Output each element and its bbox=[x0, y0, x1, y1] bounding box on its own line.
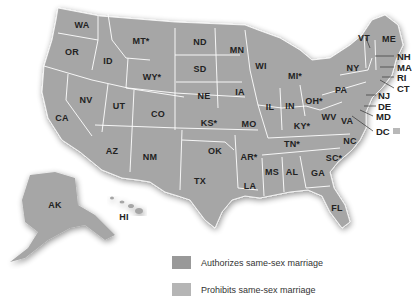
callout-label-dc: DC bbox=[376, 126, 390, 137]
state-label-il: IL bbox=[266, 102, 274, 112]
legend-label: Prohibits same-sex marriage bbox=[201, 285, 316, 295]
state-label-ak: AK bbox=[48, 200, 61, 210]
callout-label-ct: CT bbox=[397, 83, 410, 94]
state-label-wi: WI bbox=[255, 61, 266, 71]
state-label-ar: AR* bbox=[240, 152, 257, 162]
state-label-ks: KS* bbox=[201, 118, 218, 128]
state-label-tx: TX bbox=[194, 176, 206, 186]
state-label-ky: KY* bbox=[294, 121, 311, 131]
callout-label-md: MD bbox=[376, 111, 391, 122]
state-label-va: VA bbox=[341, 116, 353, 126]
legend-swatch bbox=[172, 283, 191, 296]
callout-label-ri: RI bbox=[397, 72, 407, 83]
dc-swatch bbox=[393, 128, 400, 134]
state-label-co: CO bbox=[151, 109, 165, 119]
state-label-mi: MI* bbox=[288, 71, 302, 81]
state-label-ga: GA bbox=[311, 168, 325, 178]
state-label-fl: FL bbox=[331, 203, 342, 213]
legend-swatch bbox=[172, 256, 191, 269]
callout-label-nj: NJ bbox=[378, 90, 390, 101]
state-label-mo: MO bbox=[242, 119, 257, 129]
legend-item-authorizes: Authorizes same-sex marriage bbox=[172, 256, 323, 269]
state-label-ne: NE bbox=[198, 91, 211, 101]
state-label-ms: MS bbox=[265, 167, 279, 177]
state-label-sd: SD bbox=[194, 64, 207, 74]
state-label-az: AZ bbox=[106, 146, 118, 156]
state-label-ia: IA bbox=[235, 87, 244, 97]
state-label-ny: NY bbox=[347, 63, 360, 73]
state-label-id: ID bbox=[103, 56, 112, 66]
state-label-nc: NC bbox=[343, 136, 356, 146]
state-label-vt: VT bbox=[358, 33, 370, 43]
state-label-nm: NM bbox=[143, 152, 157, 162]
state-label-wy: WY* bbox=[143, 72, 162, 82]
state-label-al: AL bbox=[286, 167, 298, 177]
state-label-tn: TN* bbox=[284, 139, 300, 149]
legend-item-prohibits: Prohibits same-sex marriage bbox=[172, 283, 316, 296]
state-label-ok: OK bbox=[208, 146, 222, 156]
state-label-ca: CA bbox=[55, 113, 68, 123]
alaska bbox=[10, 172, 115, 262]
state-label-sc: SC* bbox=[326, 153, 343, 163]
state-label-or: OR bbox=[65, 47, 79, 57]
state-label-ut: UT bbox=[113, 101, 125, 111]
legend-label: Authorizes same-sex marriage bbox=[201, 258, 323, 268]
state-label-pa: PA bbox=[335, 85, 347, 95]
state-label-nv: NV bbox=[80, 95, 93, 105]
state-label-me: ME bbox=[382, 34, 396, 44]
state-label-wa: WA bbox=[75, 20, 90, 30]
state-label-wv: WV bbox=[322, 112, 337, 122]
callout-label-nh: NH bbox=[397, 51, 411, 62]
state-label-mn: MN bbox=[230, 45, 244, 55]
state-label-nd: ND bbox=[193, 37, 206, 47]
state-label-oh: OH* bbox=[305, 96, 323, 106]
state-label-hi: HI bbox=[119, 212, 128, 222]
state-label-in: IN bbox=[285, 101, 294, 111]
state-label-la: LA bbox=[244, 181, 256, 191]
state-label-mt: MT* bbox=[132, 36, 149, 46]
